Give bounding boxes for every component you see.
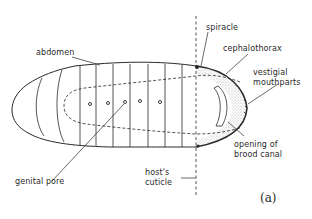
diagram-figure: abdomen spiracle cephalothorax vestigial… — [0, 0, 312, 219]
label-brood-canal: brood canal — [234, 150, 282, 160]
spiracle-top — [195, 65, 199, 69]
panel-label: (a) — [260, 191, 277, 205]
label-cuticle: cuticle — [145, 178, 172, 188]
label-cephalothorax: cephalothorax — [223, 44, 282, 54]
label-abdomen: abdomen — [36, 48, 74, 58]
label-hosts: host's — [145, 168, 169, 178]
label-vestigial: vestigial — [253, 68, 288, 78]
abdomen-outline — [12, 62, 196, 147]
label-spiracle: spiracle — [206, 23, 238, 33]
brood-canal-opening — [214, 86, 227, 126]
label-genital-pore: genital pore — [15, 177, 64, 187]
label-mouthparts: mouthparts — [253, 78, 301, 88]
segment-lines — [36, 64, 182, 147]
label-opening-of: opening of — [234, 140, 278, 150]
genital-pores — [89, 100, 162, 106]
spiracle-bottom — [196, 144, 199, 147]
